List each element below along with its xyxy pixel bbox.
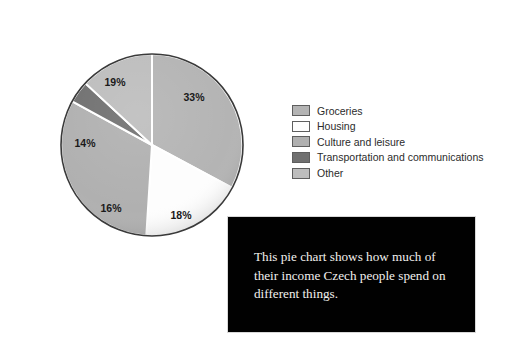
caption-box: This pie chart shows how much of their i… [228,217,475,332]
chart-canvas: 33% 18% 16% 14% 19% Groceries Housing Cu… [0,0,512,348]
pie-chart-svg: 33% 18% 16% 14% 19% [59,52,245,238]
legend-swatch-icon [292,136,310,147]
legend-item-transportation: Transportation and communications [292,150,507,166]
legend-item-culture: Culture and leisure [292,134,507,150]
pie-chart: 33% 18% 16% 14% 19% [59,52,245,238]
chart-legend: Groceries Housing Culture and leisure Tr… [292,103,507,181]
legend-label: Housing [317,121,356,132]
pie-label-other: 19% [104,76,126,88]
legend-item-housing: Housing [292,119,507,135]
pie-label-groceries: 33% [183,91,205,103]
legend-label: Transportation and communications [317,152,484,163]
legend-swatch-icon [292,152,310,163]
legend-item-groceries: Groceries [292,103,507,119]
legend-label: Other [317,168,343,179]
legend-swatch-icon [292,121,310,132]
legend-label: Groceries [317,106,363,117]
caption-text: This pie chart shows how much of their i… [254,248,454,304]
pie-label-housing: 18% [170,209,192,221]
legend-swatch-icon [292,168,310,179]
pie-label-transportation: 14% [74,137,96,149]
legend-swatch-icon [292,105,310,116]
pie-label-culture: 16% [100,202,122,214]
legend-label: Culture and leisure [317,137,405,148]
legend-item-other: Other [292,165,507,181]
